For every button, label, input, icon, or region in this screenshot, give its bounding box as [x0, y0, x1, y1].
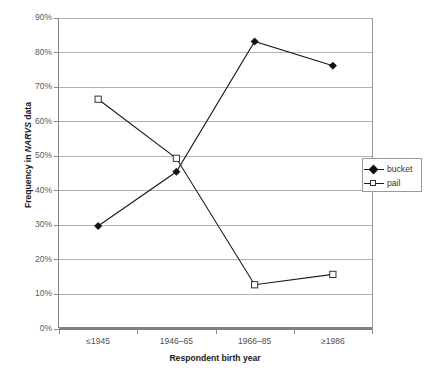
data-point-pail-1: [173, 155, 179, 161]
data-point-pail-3: [330, 271, 336, 277]
caption-remnant: [56, 370, 386, 379]
line-chart: 0%10%20%30%40%50%60%70%80%90% ≤19451946–…: [0, 0, 426, 379]
legend-label-bucket: bucket: [385, 165, 412, 174]
y-axis-title-prefix: Frequency in: [23, 152, 33, 208]
data-point-pail-2: [252, 282, 258, 288]
open-square-marker-icon: [363, 177, 385, 189]
series-line-pail: [98, 99, 333, 285]
data-point-bucket-0: [95, 222, 102, 229]
legend-item-bucket[interactable]: bucket: [363, 162, 421, 176]
data-point-bucket-2: [251, 38, 258, 45]
series-line-bucket: [98, 42, 333, 227]
data-point-pail-0: [95, 96, 101, 102]
y-axis-title-suffix: data: [23, 102, 33, 122]
data-point-bucket-1: [173, 168, 180, 175]
legend-label-pail: pail: [385, 179, 400, 188]
chart-legend[interactable]: bucket pail: [362, 158, 422, 192]
x-axis-title: Respondent birth year: [58, 353, 372, 363]
y-axis-title-italic: NARVS: [23, 122, 33, 152]
y-axis-title: Frequency in NARVS data: [23, 65, 33, 245]
filled-diamond-marker-icon: [363, 163, 385, 175]
legend-item-pail[interactable]: pail: [363, 176, 421, 190]
data-point-bucket-3: [329, 62, 336, 69]
